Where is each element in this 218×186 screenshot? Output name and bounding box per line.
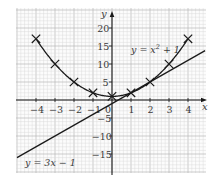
x-tick-label: 1 [129,104,135,115]
y-tick-label: 20 [97,23,109,34]
x-tick-label: −2 [68,104,82,115]
x-tick-label: −4 [30,104,44,115]
y-tick-label: −15 [92,149,112,160]
x-tick-label: −3 [49,104,63,115]
x-tick-label: 3 [167,104,173,115]
curve-label: y = x2 + 1 [130,43,180,55]
y-tick-label: 15 [97,41,109,52]
y-tick-label: −10 [92,131,112,142]
chart: −4−3−2−101234−15−10−55101520 y x y = x2 … [0,0,218,186]
x-tick-label: 4 [186,104,192,115]
line-label: y = 3x − 1 [24,157,76,168]
x-tick-label: 2 [148,104,154,115]
curve-label-main: y = x [130,44,156,55]
x-axis-label: x [202,101,208,112]
y-axis-label: y [100,8,107,19]
y-tick-label: 5 [103,77,109,88]
y-tick-label: −5 [97,113,111,124]
curve-label-tail: + 1 [160,44,180,55]
y-tick-label: 10 [97,59,109,70]
